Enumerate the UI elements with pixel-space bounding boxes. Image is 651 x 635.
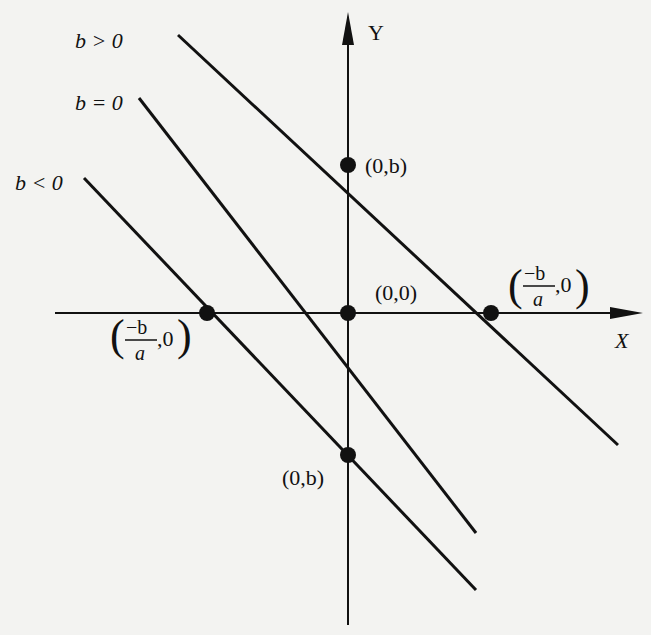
- diagram-stage: Y X b > 0 b = 0 b < 0 (0,b) (0,0): [0, 0, 651, 635]
- point-label: (0,b): [282, 465, 324, 490]
- line-b-positive: b > 0: [75, 28, 618, 445]
- point-label-rest: ,0: [157, 326, 174, 351]
- line-label-b-negative: b < 0: [15, 170, 63, 195]
- point-y-intercept-negative: (0,b): [282, 447, 356, 490]
- fraction-denominator: a: [135, 342, 145, 364]
- x-axis-arrow-icon: [610, 307, 643, 319]
- fraction-numerator: −b: [126, 316, 147, 338]
- linear-function-diagram: Y X b > 0 b = 0 b < 0 (0,b) (0,0): [0, 0, 651, 635]
- line-b-zero: b = 0: [75, 90, 476, 533]
- paren-left: (: [508, 261, 523, 310]
- fraction-denominator: a: [533, 288, 543, 310]
- point-label: (0,0): [375, 280, 417, 305]
- paren-left: (: [110, 311, 125, 360]
- point-label: (0,b): [365, 153, 407, 178]
- y-axis-arrow-icon: [342, 12, 354, 45]
- point-origin: (0,0): [340, 280, 417, 321]
- line-b-negative: b < 0: [15, 170, 476, 590]
- line-label-b-zero: b = 0: [75, 90, 123, 115]
- line-label-b-positive: b > 0: [75, 28, 123, 53]
- point-y-intercept-positive: (0,b): [340, 153, 407, 178]
- paren-right: ): [575, 261, 590, 310]
- paren-right: ): [177, 311, 192, 360]
- fraction-numerator: −b: [524, 262, 545, 284]
- y-axis-label: Y: [368, 20, 384, 45]
- point-label-rest: ,0: [555, 272, 572, 297]
- x-axis-label: X: [614, 328, 630, 353]
